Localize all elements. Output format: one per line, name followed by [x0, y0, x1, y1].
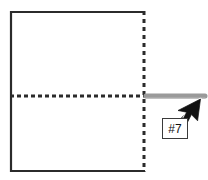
panel-fill	[10, 11, 145, 172]
callout-label-text: #7	[168, 123, 181, 135]
callout-label-box: #7	[162, 118, 188, 139]
diagram-canvas	[0, 0, 208, 180]
screenshot-canvas: #7	[0, 0, 208, 180]
